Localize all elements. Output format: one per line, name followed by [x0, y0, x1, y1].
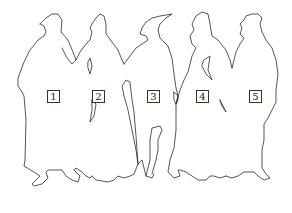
- figure-label-1: 1: [47, 90, 60, 103]
- figure-label-2: 2: [92, 90, 105, 103]
- figures-outline-drawing: [0, 0, 292, 213]
- figure-label-5: 5: [249, 90, 262, 103]
- figure-label-3: 3: [147, 90, 160, 103]
- figure-2-outline: [76, 14, 138, 182]
- figure-label-4: 4: [196, 90, 209, 103]
